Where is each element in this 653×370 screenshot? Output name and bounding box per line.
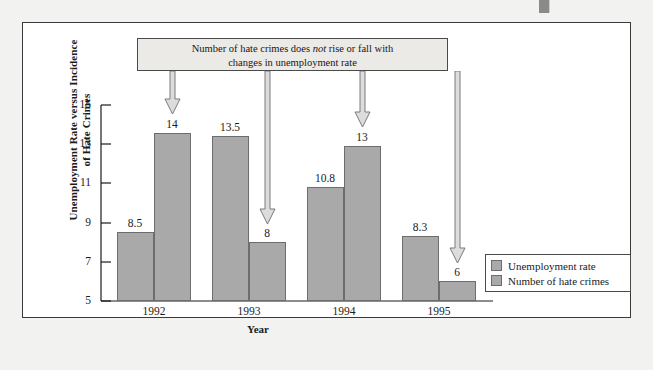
legend-label-unemployment-rate: Unemployment rate [508, 260, 596, 272]
legend-swatch-icon-unemployment-rate [491, 260, 502, 271]
bar-1993-hate-crimes [249, 242, 286, 301]
bar-value-1993-unemployment-rate: 13.5 [208, 121, 252, 133]
y-axis-title: Unemployment Rate versus Incidence of Ha… [67, 35, 97, 225]
page-corner-mark [539, 0, 550, 13]
bar-1995-unemployment-rate [402, 236, 439, 301]
y-tick-label-5: 5 [67, 294, 91, 306]
bar-value-1992-unemployment-rate: 8.5 [113, 217, 157, 229]
bar-1992-unemployment-rate [117, 232, 154, 301]
x-tick-label-1994: 1994 [314, 305, 374, 317]
bar-1992-hate-crimes [154, 133, 191, 301]
callout-arrow-1994 [354, 71, 371, 129]
legend-swatch-icon-hate-crimes [491, 275, 502, 286]
chart-plot-area: Unemployment Rate versus Incidence of Ha… [23, 23, 632, 319]
bar-value-1992-hate-crimes: 14 [150, 118, 194, 130]
legend-item-hate-crimes: Number of hate crimes [491, 273, 626, 288]
callout-text-pre: Number of hate crimes does [192, 43, 313, 54]
bar-value-1994-unemployment-rate: 10.8 [303, 172, 347, 184]
y-tick-label-9: 9 [67, 216, 91, 228]
x-tick-label-1993: 1993 [219, 305, 279, 317]
callout-text-line2: changes in unemployment rate [228, 57, 357, 68]
legend-label-hate-crimes: Number of hate crimes [508, 275, 609, 287]
x-axis-title: Year [23, 323, 493, 335]
bar-value-1995-hate-crimes: 6 [435, 266, 479, 278]
chart-legend: Unemployment rate Number of hate crimes [485, 254, 631, 292]
y-tick-label-15: 15 [67, 98, 91, 110]
x-tick-label-1992: 1992 [124, 305, 184, 317]
y-axis-title-text: Unemployment Rate versus Incidence of Ha… [67, 40, 92, 221]
y-tick-label-11: 11 [67, 176, 91, 188]
bar-value-1993-hate-crimes: 8 [245, 227, 289, 239]
bar-1994-hate-crimes [344, 146, 381, 301]
bar-1993-unemployment-rate [212, 136, 249, 301]
annotation-callout-box: Number of hate crimes does not rise or f… [137, 38, 448, 71]
bar-value-1994-hate-crimes: 13 [340, 131, 384, 143]
callout-arrow-1995 [449, 71, 466, 265]
x-tick-label-1995: 1995 [409, 305, 469, 317]
figure-panel: Unemployment Rate versus Incidence of Ha… [22, 22, 631, 318]
callout-text-post: rise or fall with [326, 43, 393, 54]
bar-1995-hate-crimes [439, 281, 476, 301]
bar-1994-unemployment-rate [307, 187, 344, 301]
y-tick-label-7: 7 [67, 255, 91, 267]
legend-item-unemployment-rate: Unemployment rate [491, 258, 626, 273]
bar-value-1995-unemployment-rate: 8.3 [398, 221, 442, 233]
y-tick-label-13: 13 [67, 137, 91, 149]
callout-text-emphasis: not [313, 43, 326, 54]
callout-arrow-1993 [259, 71, 276, 226]
callout-arrow-1992 [164, 71, 181, 116]
